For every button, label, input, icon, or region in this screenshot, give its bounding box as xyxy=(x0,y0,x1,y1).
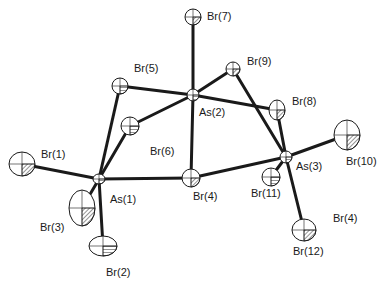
atom-label-br9: Br(9) xyxy=(247,56,271,67)
atom-br12 xyxy=(292,219,316,241)
atom-label-br2: Br(2) xyxy=(106,267,130,278)
atom-label-br11: Br(11) xyxy=(251,188,281,199)
atom-label-br10: Br(10) xyxy=(346,156,377,167)
atom-label-br5: Br(5) xyxy=(134,63,158,74)
atom-label-br3: Br(3) xyxy=(40,222,64,233)
atom-br8 xyxy=(269,100,285,120)
atom-br11 xyxy=(262,168,280,186)
atom-br3 xyxy=(69,190,95,226)
atom-label-br6: Br(6) xyxy=(150,146,174,157)
atom-br2 xyxy=(89,236,117,256)
atom-as3 xyxy=(280,151,292,163)
atom-label-br12: Br(12) xyxy=(293,246,324,257)
atom-label-br4b: Br(4) xyxy=(333,213,357,224)
atom-label-as2: As(2) xyxy=(199,107,225,118)
atom-as1 xyxy=(93,174,105,184)
atom-br9 xyxy=(226,62,240,76)
atoms-layer xyxy=(0,0,388,286)
atom-br1 xyxy=(9,152,35,176)
atom-label-br1: Br(1) xyxy=(41,149,65,160)
atom-label-as3: As(3) xyxy=(296,161,322,172)
atom-as2 xyxy=(187,89,199,101)
atom-br4 xyxy=(182,169,200,187)
molecular-structure-diagram: Br(7)Br(5)Br(9)As(2)Br(8)Br(6)Br(1)As(1)… xyxy=(0,0,388,286)
atom-label-as1: As(1) xyxy=(110,194,136,205)
atom-br6 xyxy=(121,117,139,135)
atom-label-br7: Br(7) xyxy=(207,11,231,22)
atom-br10 xyxy=(334,120,360,150)
atom-label-br4: Br(4) xyxy=(193,191,217,202)
atom-label-br8: Br(8) xyxy=(292,96,316,107)
atom-br5 xyxy=(112,78,128,94)
atom-br7 xyxy=(185,9,201,25)
